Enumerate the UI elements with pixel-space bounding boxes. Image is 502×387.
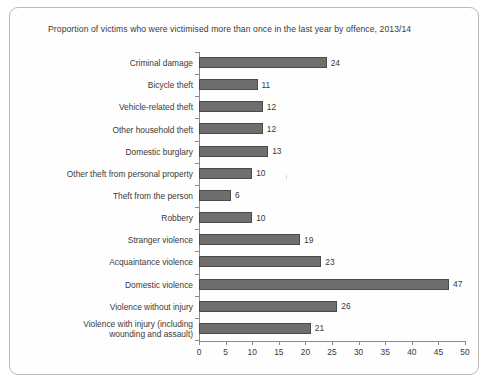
bar[interactable]	[199, 256, 321, 267]
bar-value-label: 12	[267, 124, 276, 134]
y-axis-tick	[195, 163, 199, 164]
bar-track: 10	[199, 212, 465, 223]
x-axis-tick	[305, 341, 306, 345]
bar[interactable]	[199, 279, 449, 290]
y-axis-tick	[195, 207, 199, 208]
category-label: Violence without injury	[23, 302, 193, 313]
bar-row: Other household theft12	[199, 118, 465, 140]
bar-value-label: 19	[304, 235, 313, 245]
bar-value-label: 47	[453, 279, 462, 289]
bar[interactable]	[199, 79, 258, 90]
category-label: Domestic burglary	[23, 146, 193, 157]
bar[interactable]	[199, 234, 300, 245]
bar-row: Vehicle-related theft12	[199, 96, 465, 118]
bar-track: 6	[199, 190, 465, 201]
x-axis-tick-label: 0	[197, 347, 202, 357]
bar-value-label: 13	[272, 146, 281, 156]
y-axis-tick	[195, 74, 199, 75]
bar[interactable]	[199, 101, 263, 112]
y-axis-tick	[195, 118, 199, 119]
category-label: Stranger violence	[23, 235, 193, 246]
bar-value-label: 11	[262, 80, 271, 90]
plot-area: Criminal damage24Bicycle theft11Vehicle-…	[199, 52, 465, 340]
bar-value-label: 10	[256, 168, 265, 178]
bar-track: 26	[199, 301, 465, 312]
bar-track: 47	[199, 279, 465, 290]
bar-value-label: 21	[315, 323, 324, 333]
bar-value-label: 12	[267, 102, 276, 112]
category-label: Domestic violence	[23, 279, 193, 290]
category-label: Theft from the person	[23, 191, 193, 202]
category-label: Violence with injury (including wounding…	[23, 318, 193, 339]
x-axis-tick	[199, 341, 200, 345]
bar-row: Stranger violence19	[199, 229, 465, 251]
bar-value-label: 24	[331, 57, 340, 67]
bar-track: 12	[199, 123, 465, 134]
bar[interactable]	[199, 190, 231, 201]
category-label: Bicycle theft	[23, 80, 193, 91]
bar[interactable]	[199, 57, 327, 68]
bar-track: 24	[199, 57, 465, 68]
bar[interactable]	[199, 301, 337, 312]
bar-value-label: 23	[325, 257, 334, 267]
y-axis-tick	[195, 296, 199, 297]
category-label: Robbery	[23, 213, 193, 224]
x-axis-tick-label: 35	[381, 347, 390, 357]
category-label: Acquaintance violence	[23, 257, 193, 268]
bar[interactable]	[199, 168, 252, 179]
y-axis-tick	[195, 141, 199, 142]
x-axis-tick-label: 25	[327, 347, 336, 357]
bar-value-label: 6	[235, 190, 240, 200]
category-label: Other theft from personal property	[23, 169, 193, 180]
bar-row: Other theft from personal property10	[199, 163, 465, 185]
bar-row: Violence with injury (including wounding…	[199, 318, 465, 340]
bar-value-label: 10	[256, 212, 265, 222]
bar-row: Bicycle theft11	[199, 74, 465, 96]
bar-row: Acquaintance violence23	[199, 251, 465, 273]
bar-row: Domestic violence47	[199, 274, 465, 296]
y-axis-tick	[195, 274, 199, 275]
bar-row: Criminal damage24	[199, 52, 465, 74]
x-axis-tick-label: 20	[301, 347, 310, 357]
x-axis-tick-label: 10	[248, 347, 257, 357]
bar[interactable]	[199, 212, 252, 223]
x-axis-tick-label: 45	[434, 347, 443, 357]
x-axis-tick	[359, 341, 360, 345]
category-label: Vehicle-related theft	[23, 102, 193, 113]
y-axis-tick	[195, 52, 199, 53]
bar-row: Violence without injury26	[199, 296, 465, 318]
bar-track: 11	[199, 79, 465, 90]
x-axis-tick	[252, 341, 253, 345]
x-axis-tick	[385, 341, 386, 345]
x-axis-tick	[226, 341, 227, 345]
x-axis-tick-label: 30	[354, 347, 363, 357]
bar-track: 12	[199, 101, 465, 112]
x-axis-tick	[279, 341, 280, 345]
scan-artifact	[286, 175, 287, 179]
bar-row: Domestic burglary13	[199, 141, 465, 163]
bar-track: 21	[199, 323, 465, 334]
bar[interactable]	[199, 123, 263, 134]
bar[interactable]	[199, 146, 268, 157]
chart-title: Proportion of victims who were victimise…	[48, 24, 468, 35]
bar-track: 10	[199, 168, 465, 179]
y-axis-tick	[195, 229, 199, 230]
x-axis-tick-label: 40	[407, 347, 416, 357]
bar[interactable]	[199, 323, 311, 334]
category-label: Other household theft	[23, 124, 193, 135]
bar-track: 19	[199, 234, 465, 245]
y-axis-tick	[195, 96, 199, 97]
x-axis-tick-label: 50	[460, 347, 469, 357]
x-axis-tick-label: 15	[274, 347, 283, 357]
x-axis-tick	[332, 341, 333, 345]
bar-track: 23	[199, 256, 465, 267]
x-axis-tick	[465, 341, 466, 345]
category-label: Criminal damage	[23, 58, 193, 69]
y-axis-tick	[195, 318, 199, 319]
bar-row: Robbery10	[199, 207, 465, 229]
x-axis-tick	[438, 341, 439, 345]
bar-value-label: 26	[341, 301, 350, 311]
x-axis-tick-label: 5	[223, 347, 228, 357]
y-axis-tick	[195, 251, 199, 252]
x-axis-tick	[412, 341, 413, 345]
